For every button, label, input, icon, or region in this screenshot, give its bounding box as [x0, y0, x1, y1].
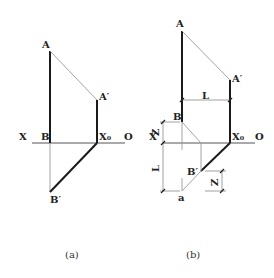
- label-Z-right-b: Z: [209, 179, 220, 186]
- panel-b: A A′ L B X X₀ O Z L B′ Z a (b): [149, 18, 264, 260]
- label-L-top-b: L: [202, 90, 209, 101]
- label-X0-a: X₀: [99, 131, 112, 142]
- line-a-aprime-a: [50, 51, 97, 100]
- label-Bprime-b: B′: [187, 166, 198, 177]
- label-B-b: B: [173, 111, 181, 122]
- label-Bprime-a: B′: [50, 194, 61, 205]
- line-x0-bprime-a: [50, 143, 97, 192]
- label-X-a: X: [19, 131, 27, 142]
- label-A-b: A: [175, 18, 184, 29]
- label-O-a: O: [124, 131, 133, 142]
- label-A-a: A: [41, 39, 50, 50]
- line-b-axis-b: [182, 122, 201, 143]
- panel-a: A A′ X B X₀ O B′ (a): [19, 39, 133, 260]
- label-a-b: a: [178, 192, 185, 203]
- line-a-aprime-b: [182, 31, 230, 80]
- label-O-b: O: [255, 131, 264, 142]
- label-L-left-b: L: [150, 165, 161, 172]
- caption-b: (b): [186, 249, 200, 260]
- projection-diagram: A A′ X B X₀ O B′ (a): [0, 0, 274, 278]
- caption-a: (a): [65, 249, 79, 260]
- label-B-a: B: [41, 131, 49, 142]
- label-X0-b: X₀: [232, 131, 245, 142]
- label-Aprime-a: A′: [98, 91, 110, 102]
- label-Aprime-b: A′: [231, 73, 243, 84]
- label-Z-left-b: Z: [150, 129, 161, 136]
- line-x0-bprime-b: [201, 143, 230, 171]
